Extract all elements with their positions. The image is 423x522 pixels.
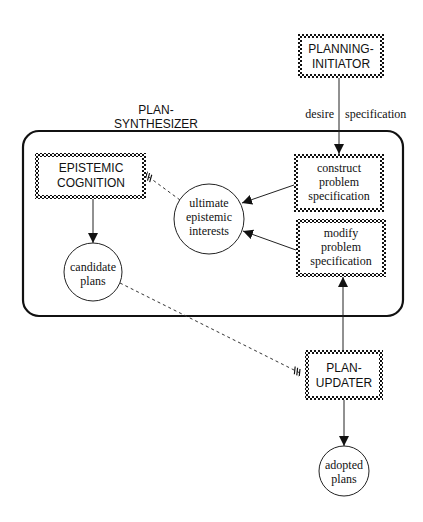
ultimate-line2: epistemic [186,210,232,224]
edge-candidates-to-updater [120,283,300,373]
ultimate-line1: ultimate [189,196,228,210]
edge-label-specification: specification [345,107,406,121]
plan-updater-line2: UPDATER [316,376,373,390]
construct-line1: construct [317,161,362,175]
adopted-line2: plans [331,472,357,486]
container-label-line2: SYNTHESIZER [114,117,198,131]
container-label-line1: PLAN- [138,103,173,117]
construct-problem-specification-process: construct problem specification [294,154,384,212]
edge-modify-to-interests [243,231,296,250]
modify-line3: specification [310,254,371,268]
plan-updater-module: PLAN- UPDATER [305,350,383,400]
construct-line2: problem [319,175,360,189]
planning-initiator-line1: PLANNING- [308,42,373,56]
construct-line3: specification [308,189,369,203]
edge-label-desire: desire [305,107,334,121]
adopted-line1: adopted [325,458,363,472]
plan-architecture-diagram: PLAN- SYNTHESIZER desire specification P… [0,0,423,522]
modify-line2: problem [321,240,362,254]
planning-initiator-module: PLANNING- INITIATOR [298,34,384,78]
edge-interests-to-cognition [146,175,180,200]
epistemic-cognition-line1: EPISTEMIC [59,161,124,175]
candidate-plans-node: candidate plans [64,243,122,301]
adopted-plans-node: adopted plans [319,446,369,496]
epistemic-cognition-module: EPISTEMIC COGNITION [35,153,146,199]
modify-problem-specification-process: modify problem specification [296,219,386,277]
candidate-line2: plans [80,274,106,288]
candidate-line1: candidate [70,260,116,274]
ultimate-line3: interests [189,224,229,238]
modify-line1: modify [324,226,359,240]
plan-updater-line1: PLAN- [326,361,361,375]
planning-initiator-line2: INITIATOR [312,57,371,71]
epistemic-cognition-line2: COGNITION [57,176,125,190]
edge-construct-to-interests [242,185,294,203]
ultimate-epistemic-interests-node: ultimate epistemic interests [174,184,244,254]
